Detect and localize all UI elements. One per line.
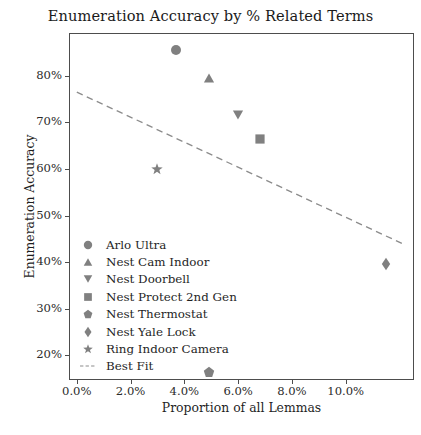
legend-item-label: Nest Cam Indoor xyxy=(104,255,209,269)
legend-item-nest-yale-lock[interactable]: Nest Yale Lock xyxy=(78,323,237,340)
y-axis-label: Enumeration Accuracy xyxy=(22,33,37,380)
y-tick-mark xyxy=(65,76,69,77)
legend-item-label: Nest Protect 2nd Gen xyxy=(104,290,237,304)
legend-item-label: Ring Indoor Camera xyxy=(104,342,229,356)
legend-item-nest-protect-2nd-gen[interactable]: Nest Protect 2nd Gen xyxy=(78,288,237,305)
y-tick-label: 70% xyxy=(36,114,62,128)
star-icon xyxy=(78,340,104,357)
x-tick-label: 8.0% xyxy=(277,384,306,398)
y-tick-mark xyxy=(65,216,69,217)
legend-item-nest-thermostat[interactable]: Nest Thermostat xyxy=(78,306,237,323)
triangle-down-icon xyxy=(78,271,104,288)
legend-item-label: Arlo Ultra xyxy=(104,238,166,252)
y-tick-label: 30% xyxy=(36,301,62,315)
triangle-up-icon xyxy=(78,253,104,270)
circle-icon xyxy=(78,236,104,253)
square-icon xyxy=(78,288,104,305)
x-tick-label: 2.0% xyxy=(116,384,145,398)
pentagon-icon xyxy=(78,306,104,323)
y-tick-label: 40% xyxy=(36,254,62,268)
y-tick-mark xyxy=(65,169,69,170)
legend-item-label: Best Fit xyxy=(104,359,153,373)
x-tick-label: 0.0% xyxy=(62,384,91,398)
x-tick-label: 4.0% xyxy=(170,384,199,398)
y-tick-label: 20% xyxy=(36,347,62,361)
y-tick-mark xyxy=(65,355,69,356)
y-tick-label: 60% xyxy=(36,161,62,175)
data-point-nest-protect-2nd-gen[interactable] xyxy=(255,134,265,144)
diamond-icon xyxy=(78,323,104,340)
y-tick-mark xyxy=(65,309,69,310)
chart-title: Enumeration Accuracy by % Related Terms xyxy=(0,7,421,24)
x-axis-label: Proportion of all Lemmas xyxy=(69,400,414,415)
legend-item-ring-indoor-camera[interactable]: Ring Indoor Camera xyxy=(78,340,237,357)
legend-item-nest-cam-indoor[interactable]: Nest Cam Indoor xyxy=(78,253,237,270)
chart-legend: Arlo UltraNest Cam IndoorNest DoorbellNe… xyxy=(78,236,237,375)
legend-item-nest-doorbell[interactable]: Nest Doorbell xyxy=(78,271,237,288)
chart-figure: Enumeration Accuracy by % Related Terms … xyxy=(0,0,421,435)
y-tick-label: 50% xyxy=(36,208,62,222)
legend-item-label: Nest Yale Lock xyxy=(104,325,196,339)
data-point-arlo-ultra[interactable] xyxy=(171,45,182,56)
y-tick-mark xyxy=(65,262,69,263)
data-point-nest-cam-indoor[interactable] xyxy=(203,73,214,83)
data-point-nest-yale-lock[interactable] xyxy=(382,258,391,271)
x-tick-label: 6.0% xyxy=(223,384,252,398)
y-tick-label: 80% xyxy=(36,68,62,82)
data-point-nest-doorbell[interactable] xyxy=(233,110,244,120)
data-point-ring-indoor-camera[interactable] xyxy=(151,163,163,175)
legend-item-label: Nest Doorbell xyxy=(104,272,190,286)
y-tick-mark xyxy=(65,122,69,123)
legend-item-arlo-ultra[interactable]: Arlo Ultra xyxy=(78,236,237,253)
legend-item-best-fit[interactable]: Best Fit xyxy=(78,358,237,375)
dashed-line-icon xyxy=(78,358,104,375)
x-tick-label: 10.0% xyxy=(327,384,364,398)
legend-item-label: Nest Thermostat xyxy=(104,307,208,321)
